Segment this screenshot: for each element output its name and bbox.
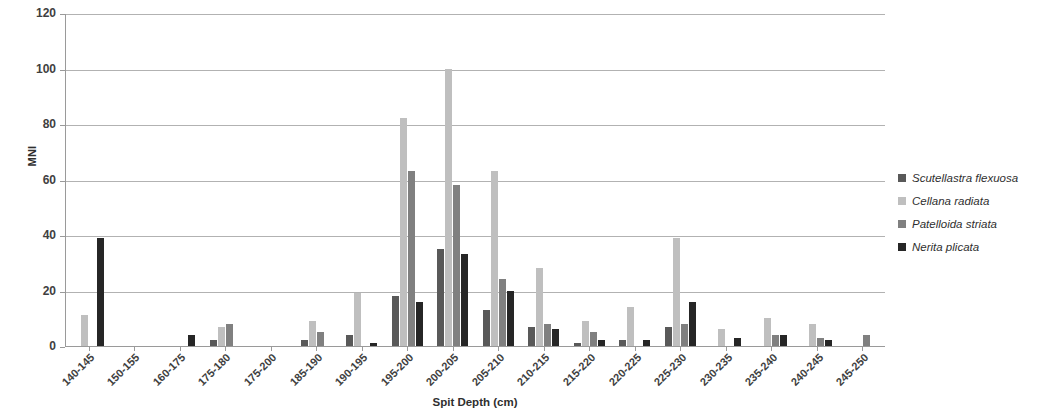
bar [681,324,688,346]
bar-group [157,14,203,346]
legend-item-label: Cellana radiata [912,195,989,207]
legend-swatch-icon [898,243,906,251]
bar-series-container [66,14,885,346]
x-axis-label-cell: 175-200 [247,349,293,397]
x-axis-tick-label: 160-175 [150,351,187,388]
y-axis-tick-label: 80 [12,117,56,131]
bar-group [612,14,658,346]
bar [673,238,680,346]
x-axis-label-cell: 175-180 [202,349,248,397]
bar [309,321,316,346]
bar [507,291,514,347]
x-axis-label-cell: 220-225 [612,349,658,397]
legend-item-label: Scutellastra flexuosa [912,172,1018,184]
bar-group [794,14,840,346]
bar [491,171,498,346]
x-axis-label-cell: 185-190 [293,349,339,397]
bar [764,318,771,346]
legend-swatch-icon [898,220,906,228]
bar-group [521,14,567,346]
x-axis-label-cell: 140-145 [65,349,111,397]
legend-item-label: Patelloida striata [912,218,997,230]
bar-group [430,14,476,346]
y-axis-tick-mark [60,181,65,182]
x-axis-tick-label: 220-225 [606,351,643,388]
x-axis-tick-label: 235-240 [743,351,780,388]
x-axis-tick-label: 195-200 [378,351,415,388]
bar [437,249,444,346]
x-axis-label-cell: 225-230 [657,349,703,397]
x-axis-tick-label: 140-145 [59,351,96,388]
x-axis-label-cell: 160-175 [156,349,202,397]
x-axis-tick-label: 230-235 [697,351,734,388]
bar [370,343,377,346]
bar [461,254,468,346]
y-axis-tick-mark [60,125,65,126]
bar [499,279,506,346]
bar [301,340,308,346]
legend: Scutellastra flexuosaCellana radiataPate… [898,172,1048,264]
bar [809,324,816,346]
bar [408,171,415,346]
bar [453,185,460,346]
x-axis-tick-label: 225-230 [652,351,689,388]
x-axis-labels: 140-145150-155160-175175-180175-200185-1… [65,349,885,397]
legend-item-label: Nerita plicata [912,241,979,253]
bar [317,332,324,346]
x-axis-tick-label: 190-195 [333,351,370,388]
legend-item[interactable]: Nerita plicata [898,241,1048,253]
legend-item[interactable]: Cellana radiata [898,195,1048,207]
bar [863,335,870,346]
x-axis-label-cell: 150-155 [111,349,157,397]
legend-item[interactable]: Patelloida striata [898,218,1048,230]
y-axis-tick-label: 100 [12,62,56,76]
bar [627,307,634,346]
y-axis-tick-label: 120 [12,6,56,20]
bar [574,343,581,346]
bar-group [203,14,249,346]
x-axis-label-cell: 190-195 [338,349,384,397]
x-axis-tick-label: 175-200 [241,351,278,388]
plot-area [65,14,885,347]
bar [817,338,824,346]
bar [400,118,407,346]
x-axis-tick-label: 150-155 [105,351,142,388]
bar [346,335,353,346]
legend-swatch-icon [898,174,906,182]
legend-item[interactable]: Scutellastra flexuosa [898,172,1048,184]
bar [536,268,543,346]
bar [544,324,551,346]
bar-group [66,14,112,346]
y-axis-tick-label: 60 [12,173,56,187]
y-axis-tick-label: 40 [12,228,56,242]
x-axis-tick-label: 175-180 [196,351,233,388]
bar [416,302,423,346]
bar [445,69,452,347]
bar-group [339,14,385,346]
bar [590,332,597,346]
x-axis-tick-label: 245-250 [834,351,871,388]
y-axis-tick-mark [60,292,65,293]
x-axis-tick-label: 240-245 [788,351,825,388]
bar [772,335,779,346]
bar-group [567,14,613,346]
bar [582,321,589,346]
bar [689,302,696,346]
x-axis-label-cell: 215-220 [566,349,612,397]
bar [825,340,832,346]
bar-group [658,14,704,346]
y-axis-tick-mark [60,14,65,15]
bar-group [294,14,340,346]
x-axis-tick-label: 215-220 [560,351,597,388]
bar [354,293,361,346]
y-axis-tick-label: 0 [12,339,56,353]
x-axis-label-cell: 240-245 [794,349,840,397]
bar [81,315,88,346]
bar-group [840,14,886,346]
x-axis-label-cell: 195-200 [384,349,430,397]
bar [734,338,741,346]
bar [665,327,672,346]
bar [528,327,535,346]
x-axis-label-cell: 210-215 [521,349,567,397]
x-axis-label-cell: 245-250 [840,349,886,397]
